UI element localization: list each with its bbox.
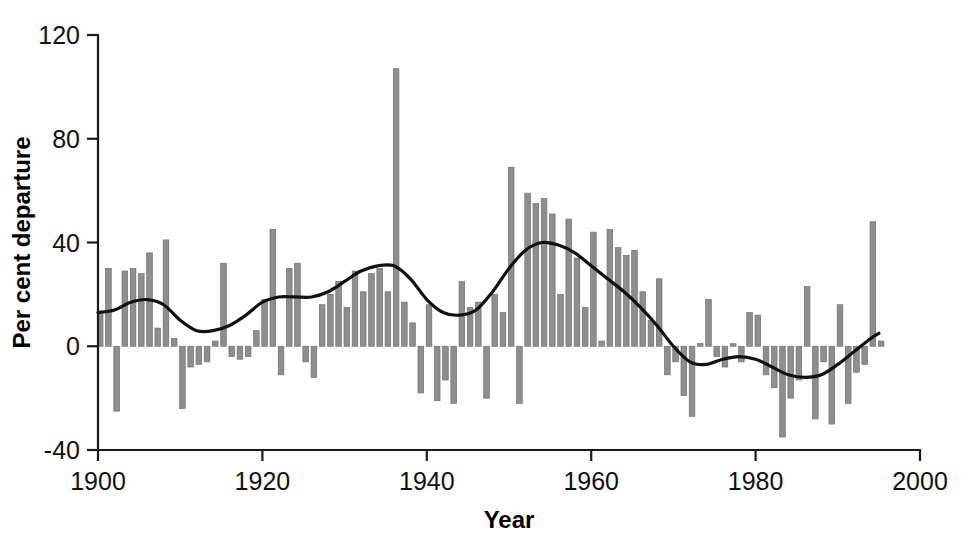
bar-1920	[262, 300, 268, 347]
bar-1966	[640, 292, 646, 346]
bar-1948	[492, 294, 498, 346]
bar-1922	[278, 346, 284, 375]
bar-1977	[730, 344, 736, 347]
bar-1939	[418, 346, 424, 393]
bar-1968	[656, 279, 662, 346]
bar-1974	[706, 300, 712, 347]
bar-1904	[130, 268, 136, 346]
bar-1979	[747, 313, 753, 347]
bar-1963	[615, 248, 621, 347]
bar-1903	[122, 271, 128, 346]
y-tick-label-40: 40	[52, 229, 80, 257]
bar-1973	[697, 344, 703, 347]
bar-1921	[270, 230, 276, 347]
bar-1949	[500, 313, 506, 347]
bar-1985	[796, 346, 802, 380]
bar-1931	[352, 271, 358, 346]
x-tick-label-1960: 1960	[563, 467, 619, 495]
bar-1940	[426, 305, 432, 347]
bar-1976	[722, 346, 728, 367]
bar-1987	[813, 346, 819, 419]
bar-1956	[558, 294, 564, 346]
bar-1989	[829, 346, 835, 424]
x-tick-label-1980: 1980	[728, 467, 784, 495]
bar-1914	[212, 341, 218, 346]
bar-1941	[434, 346, 440, 400]
bar-1907	[155, 328, 161, 346]
bar-1994	[870, 222, 876, 347]
bar-1967	[648, 320, 654, 346]
bar-1926	[311, 346, 317, 377]
bar-1902	[114, 346, 120, 411]
x-tick-label-2000: 2000	[892, 467, 948, 495]
bar-1993	[862, 346, 868, 364]
bar-1969	[665, 346, 671, 375]
bar-1986	[804, 287, 810, 347]
bar-1943	[451, 346, 457, 403]
bar-1958	[574, 258, 580, 346]
bar-1951	[517, 346, 523, 403]
x-tick-label-1920: 1920	[235, 467, 291, 495]
bar-1919	[254, 331, 260, 347]
bar-1910	[180, 346, 186, 408]
bar-1960	[591, 232, 597, 346]
bar-1938	[410, 323, 416, 346]
bar-1959	[582, 307, 588, 346]
bar-1961	[599, 341, 605, 346]
bar-1980	[755, 315, 761, 346]
bar-1911	[188, 346, 194, 367]
bar-1934	[377, 268, 383, 346]
bar-1901	[106, 268, 112, 346]
bar-1955	[550, 214, 556, 346]
bar-1909	[171, 338, 177, 346]
bar-1995	[878, 341, 884, 346]
axes-layer	[87, 35, 920, 461]
x-tick-label-1940: 1940	[399, 467, 455, 495]
bar-1913	[204, 346, 210, 362]
bar-1930	[344, 307, 350, 346]
chart-container: -4004080120190019201940196019802000YearP…	[0, 0, 979, 541]
bar-1954	[541, 198, 547, 346]
bar-1933	[369, 274, 375, 347]
bar-1908	[163, 240, 169, 346]
bar-1905	[139, 274, 145, 347]
bar-1947	[484, 346, 490, 398]
bar-1983	[780, 346, 786, 437]
y-tick-label--40: -40	[44, 436, 80, 464]
bar-1952	[525, 193, 531, 346]
bar-1916	[229, 346, 235, 356]
bar-1975	[714, 346, 720, 356]
y-tick-label-80: 80	[52, 125, 80, 153]
x-tick-label-1900: 1900	[70, 467, 126, 495]
bar-1917	[237, 346, 243, 359]
bar-1912	[196, 346, 202, 364]
x-axis-title: Year	[484, 506, 535, 533]
bar-1915	[221, 263, 227, 346]
bar-1942	[443, 346, 449, 380]
bar-1990	[837, 305, 843, 347]
bar-1929	[336, 281, 342, 346]
bar-1953	[533, 204, 539, 347]
bar-1937	[402, 302, 408, 346]
y-axis-title: Per cent departure	[8, 136, 35, 348]
y-tick-label-0: 0	[66, 332, 80, 360]
bar-1988	[821, 346, 827, 362]
bar-1923	[286, 268, 292, 346]
bar-1981	[763, 346, 769, 375]
y-tick-label-120: 120	[38, 21, 80, 49]
bar-1984	[788, 346, 794, 398]
bar-1928	[328, 294, 334, 346]
bar-1936	[393, 69, 399, 347]
bar-1962	[607, 230, 613, 347]
bars-layer	[97, 69, 883, 437]
bar-1957	[566, 219, 572, 346]
bar-1950	[508, 167, 514, 346]
percent-departure-bar-chart: -4004080120190019201940196019802000YearP…	[0, 0, 979, 541]
bar-1972	[689, 346, 695, 416]
bar-1925	[303, 346, 309, 362]
bar-1932	[360, 292, 366, 346]
bar-1927	[319, 305, 325, 347]
bar-1924	[295, 263, 301, 346]
bar-1935	[385, 292, 391, 346]
bar-1978	[739, 346, 745, 362]
